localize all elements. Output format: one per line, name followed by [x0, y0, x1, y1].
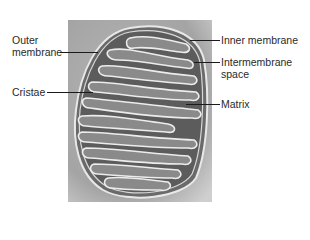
leader-line-intermembrane-space: [194, 62, 220, 63]
label-cristae: Cristae: [12, 86, 45, 98]
label-intermembrane-line2: space: [221, 68, 292, 80]
label-outer-membrane: Outer membrane: [12, 34, 62, 58]
label-inner-membrane: Inner membrane: [221, 34, 298, 46]
mitochondrion-micrograph: [68, 20, 212, 202]
mitochondrion-illustration: [68, 20, 212, 202]
label-intermembrane-line1: Intermembrane: [221, 56, 292, 68]
label-intermembrane-space: Intermembrane space: [221, 56, 292, 80]
leader-line-outer-membrane: [60, 52, 98, 53]
label-outer-membrane-line1: Outer: [12, 34, 62, 46]
leader-line-inner-membrane: [190, 40, 220, 41]
leader-line-cristae: [47, 92, 93, 93]
leader-line-matrix: [186, 104, 220, 105]
label-outer-membrane-line2: membrane: [12, 46, 62, 58]
label-matrix: Matrix: [221, 98, 250, 110]
